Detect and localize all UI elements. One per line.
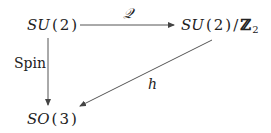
open-paren: (: [206, 16, 212, 34]
node-su2-arg: 2: [60, 16, 70, 34]
close-paren: ): [71, 16, 77, 34]
node-quotient-group: SU: [181, 16, 204, 34]
edge-label-spin: Spin: [14, 56, 46, 70]
arrow-h: [80, 40, 212, 106]
open-paren: (: [52, 110, 58, 128]
node-so3-arg: 3: [59, 110, 69, 128]
close-paren: ): [71, 110, 77, 128]
node-so3-group: SO: [27, 110, 50, 128]
node-quotient-ring: ℤ: [240, 16, 251, 34]
node-so3: SO(3): [27, 112, 79, 127]
edge-label-h: h: [148, 77, 157, 91]
node-quotient-ring-sub: 2: [252, 24, 258, 35]
node-quotient-slash: /: [233, 16, 238, 34]
node-quotient: SU(2)/ℤ2: [181, 18, 259, 35]
edge-label-q: 𝒬: [123, 6, 133, 20]
node-quotient-arg: 2: [214, 16, 224, 34]
node-su2: SU(2): [27, 18, 79, 33]
open-paren: (: [52, 16, 58, 34]
node-su2-group: SU: [27, 16, 50, 34]
close-paren: ): [225, 16, 231, 34]
